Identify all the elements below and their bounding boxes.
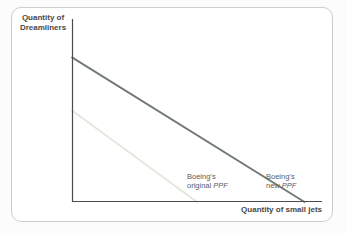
new-ppf-label-line2-prefix: new	[266, 181, 282, 190]
original-ppf-label-line1: Boeing’s	[187, 172, 216, 181]
x-axis-label: Quantity of small jets	[241, 205, 322, 214]
original-ppf-label: Boeing’s original PPF	[187, 172, 228, 190]
new-ppf-label-line1: Boeing’s	[266, 172, 295, 181]
y-axis-label: Quantity of Dreamliners	[16, 13, 70, 32]
y-axis-label-line2: Dreamliners	[20, 23, 66, 32]
original-ppf-label-italic: PPF	[213, 181, 228, 190]
original-ppf-label-line2-prefix: original	[187, 181, 213, 190]
new-ppf-label: Boeing’s new PPF	[266, 172, 296, 190]
figure-stage: Quantity of Dreamliners Boeing’s origina…	[0, 0, 347, 233]
new-ppf-label-italic: PPF	[282, 181, 297, 190]
y-axis-label-line1: Quantity of	[22, 13, 64, 22]
